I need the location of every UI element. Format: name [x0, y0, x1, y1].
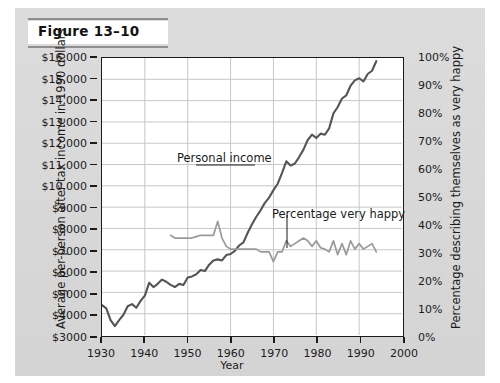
x-axis-tick-mark: [230, 337, 232, 343]
y-axis-right-tick-label: 80%: [418, 107, 442, 120]
y-axis-left-tick-mark: [90, 228, 97, 230]
figure-title-block: Figure 13–10: [28, 18, 168, 48]
annotation-personal-income: Personal income: [177, 151, 272, 165]
x-axis-tick-mark: [100, 337, 102, 343]
y-axis-left-tick-mark: [90, 250, 97, 252]
y-axis-right-tick-label: 90%: [418, 79, 442, 92]
x-axis-ticks: 19301940195019601970198019902000: [101, 341, 404, 359]
y-axis-left-tick-label: $7000: [52, 244, 87, 257]
y-axis-right-tick-label: 100%: [418, 51, 449, 64]
y-axis-left-tick-label: $13,000: [42, 115, 88, 128]
y-axis-left-tick-mark: [90, 207, 97, 209]
y-axis-right-tick-label: 60%: [418, 163, 442, 176]
x-axis-tick-mark: [143, 337, 145, 343]
y-axis-left-tick-label: $3000: [52, 331, 87, 344]
y-axis-left-tick-mark: [90, 336, 97, 338]
gridlines: [102, 58, 402, 335]
y-axis-left-tick-mark: [90, 78, 97, 80]
y-axis-left-tick-mark: [90, 99, 97, 101]
y-axis-left-tick-label: $12,000: [42, 137, 88, 150]
y-axis-left-tick-mark: [90, 142, 97, 144]
y-axis-left-tick-mark: [90, 314, 97, 316]
y-axis-right-tick-label: 10%: [418, 303, 442, 316]
y-axis-right-ticks: 0%10%20%30%40%50%60%70%80%90%100%: [409, 57, 455, 337]
y-axis-right-tick-label: 30%: [418, 247, 442, 260]
y-axis-right-tick-label: 50%: [418, 191, 442, 204]
title-rule-bottom: [28, 46, 168, 48]
y-axis-left-tick-mark: [90, 121, 97, 123]
x-axis-title-text: Year: [220, 359, 243, 372]
y-axis-left-tick-mark: [90, 164, 97, 166]
y-axis-left-tick-label: $15,000: [42, 72, 88, 85]
y-axis-left-tick-label: $4000: [52, 309, 87, 322]
figure-panel: Figure 13–10 Average per-person after-ta…: [15, 8, 485, 376]
y-axis-left-tick-label: $8000: [52, 223, 87, 236]
chart-canvas: [102, 58, 402, 335]
annotation-percentage-very-happy: Percentage very happy: [272, 207, 405, 221]
y-axis-left-tick-label: $6000: [52, 266, 87, 279]
y-axis-left-tick-mark: [90, 56, 97, 58]
y-axis-left-tick-mark: [90, 185, 97, 187]
title-rule-top: [28, 18, 168, 20]
y-axis-right-tick-label: 70%: [418, 135, 442, 148]
y-axis-left-tick-label: $16,000: [42, 51, 88, 64]
y-axis-left-ticks: $3000$4000$5000$6000$7000$8000$9000$10,0…: [15, 57, 97, 337]
x-axis-title: Year: [15, 359, 485, 372]
x-axis-tick-mark: [403, 337, 405, 343]
y-axis-left-tick-mark: [90, 293, 97, 295]
y-axis-left-tick-label: $10,000: [42, 180, 88, 193]
x-axis-tick-mark: [360, 337, 362, 343]
y-axis-right-tick-label: 20%: [418, 275, 442, 288]
x-axis-tick-mark: [316, 337, 318, 343]
y-axis-right-tick-label: 0%: [418, 331, 435, 344]
y-axis-right-tick-label: 40%: [418, 219, 442, 232]
plot-area: [101, 57, 404, 337]
y-axis-left-tick-label: $14,000: [42, 94, 88, 107]
y-axis-left-tick-mark: [90, 271, 97, 273]
y-axis-left-tick-label: $11,000: [42, 158, 88, 171]
x-axis-tick-mark: [187, 337, 189, 343]
y-axis-left-tick-label: $9000: [52, 201, 87, 214]
x-axis-tick-mark: [273, 337, 275, 343]
y-axis-left-tick-label: $5000: [52, 287, 87, 300]
